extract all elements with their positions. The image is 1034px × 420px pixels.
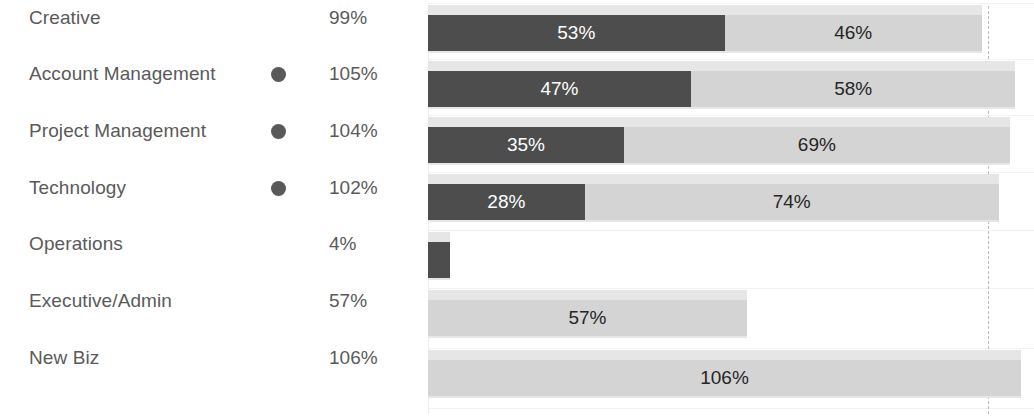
stacked-bar: 28%74%	[428, 184, 999, 220]
category-row: Project Management104%	[0, 117, 428, 145]
bar-segment-dark	[428, 242, 450, 278]
bar-segment-light: 58%	[691, 71, 1016, 107]
row-separator	[428, 348, 1034, 349]
bar-segment-label: 53%	[557, 22, 595, 44]
row-separator	[428, 288, 1034, 289]
bar-segment-label: 28%	[487, 191, 525, 213]
stacked-bar: 57%	[428, 300, 747, 336]
bar-segment-dark: 35%	[428, 127, 624, 163]
stacked-bar: 35%69%	[428, 127, 1010, 163]
bar-segment-light: 69%	[624, 127, 1010, 163]
row-separator	[428, 172, 1034, 173]
category-total-value: 4%	[329, 233, 356, 255]
row-separator	[428, 408, 1034, 409]
bar-segment-light: 46%	[725, 15, 982, 51]
row-separator	[428, 59, 1034, 60]
category-row: New Biz106%	[0, 344, 428, 372]
category-row: Creative99%	[0, 4, 428, 32]
status-dot-icon	[271, 67, 286, 82]
row-separator	[428, 3, 1034, 4]
category-total-value: 106%	[329, 347, 378, 369]
bar-row: 53%46%	[428, 5, 1034, 53]
category-total-value: 99%	[329, 7, 367, 29]
category-name: Account Management	[29, 63, 216, 85]
row-separator	[428, 115, 1034, 116]
category-name: Executive/Admin	[29, 290, 172, 312]
category-total-value: 104%	[329, 120, 378, 142]
bar-segment-label: 106%	[700, 367, 749, 389]
bar-segment-light: 57%	[428, 300, 747, 336]
category-row: Executive/Admin57%	[0, 287, 428, 315]
bar-row	[428, 232, 1034, 280]
category-row: Operations4%	[0, 230, 428, 258]
bar-row: 47%58%	[428, 61, 1034, 109]
bar-segment-dark: 28%	[428, 184, 585, 220]
category-name: Project Management	[29, 120, 206, 142]
bar-segment-dark: 53%	[428, 15, 725, 51]
stacked-bar	[428, 242, 450, 278]
row-separator	[428, 230, 1034, 231]
bar-segment-light: 74%	[585, 184, 999, 220]
bar-segment-label: 69%	[798, 134, 836, 156]
category-total-value: 102%	[329, 177, 378, 199]
status-dot-icon	[271, 181, 286, 196]
bar-segment-label: 74%	[773, 191, 811, 213]
bar-segment-light: 106%	[428, 360, 1021, 396]
plot-area: 100% 53%46%47%58%35%69%28%74%57%106%	[428, 0, 1034, 420]
bar-row: 57%	[428, 290, 1034, 338]
bar-segment-label: 58%	[834, 78, 872, 100]
category-name: Technology	[29, 177, 126, 199]
category-total-value: 57%	[329, 290, 367, 312]
status-dot-icon	[271, 124, 286, 139]
bar-segment-label: 35%	[507, 134, 545, 156]
category-name: Creative	[29, 7, 101, 29]
bar-segment-label: 47%	[540, 78, 578, 100]
chart-container: Creative99%Account Management105%Project…	[0, 0, 1034, 420]
category-name: Operations	[29, 233, 123, 255]
bar-segment-label: 57%	[568, 307, 606, 329]
bar-row: 35%69%	[428, 117, 1034, 165]
stacked-bar: 53%46%	[428, 15, 982, 51]
stacked-bar: 47%58%	[428, 71, 1015, 107]
bar-row: 106%	[428, 350, 1034, 398]
bar-segment-label: 46%	[834, 22, 872, 44]
category-name: New Biz	[29, 347, 99, 369]
category-row: Account Management105%	[0, 60, 428, 88]
stacked-bar: 106%	[428, 360, 1021, 396]
bar-row: 28%74%	[428, 174, 1034, 222]
bar-segment-dark: 47%	[428, 71, 691, 107]
category-total-value: 105%	[329, 63, 378, 85]
category-row: Technology102%	[0, 174, 428, 202]
